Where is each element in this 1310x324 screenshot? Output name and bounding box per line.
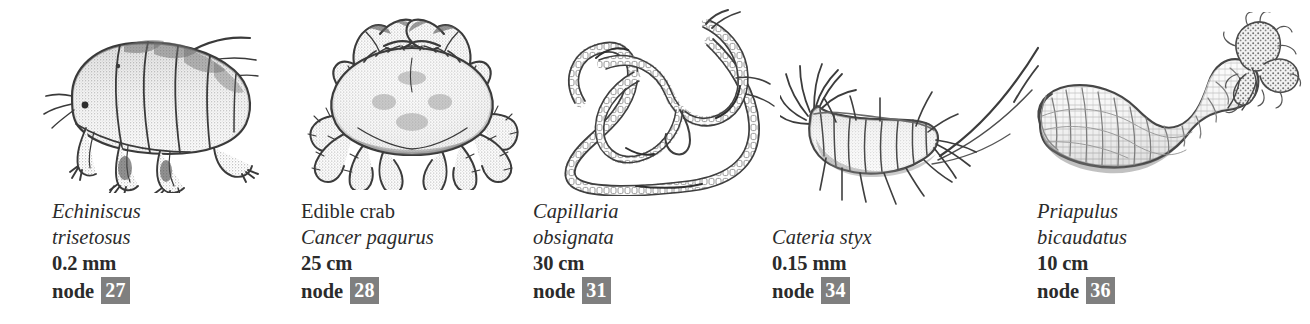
kinorhynch-illustration <box>780 8 1040 208</box>
specimen-size: 25 cm <box>301 250 434 276</box>
scientific-name-line1: Cateria styx <box>772 224 872 250</box>
node-label: node <box>301 278 343 304</box>
scientific-name-line1: Capillaria <box>533 198 618 224</box>
common-name: Edible crab <box>301 198 434 224</box>
scientific-name-line1: Echiniscus <box>52 198 141 224</box>
node-label: node <box>772 278 814 304</box>
scientific-name-line2: bicaudatus <box>1037 224 1127 250</box>
caption-block: Edible crab Cancer pagurus 25 cm node 28 <box>301 198 434 304</box>
scientific-name-line1: Priapulus <box>1037 198 1127 224</box>
scientific-name-line1: Cancer pagurus <box>301 224 434 250</box>
node-number-badge: 27 <box>101 277 130 304</box>
node-label: node <box>1037 278 1079 304</box>
node-label: node <box>52 278 94 304</box>
node-row: node 36 <box>1037 277 1127 304</box>
node-row: node 34 <box>772 277 872 304</box>
caption-block: Priapulus bicaudatus 10 cm node 36 <box>1037 198 1127 304</box>
nematode-illustration <box>540 6 780 196</box>
specimen-size: 10 cm <box>1037 250 1127 276</box>
node-number-badge: 31 <box>582 277 611 304</box>
node-row: node 27 <box>52 277 141 304</box>
node-row: node 28 <box>301 277 434 304</box>
node-number-badge: 36 <box>1086 277 1115 304</box>
caption-block: Echiniscus trisetosus 0.2 mm node 27 <box>52 198 141 304</box>
specimen-plate: Echiniscus trisetosus 0.2 mm node 27 <box>0 0 1310 324</box>
node-number-badge: 34 <box>821 277 850 304</box>
node-row: node 31 <box>533 277 618 304</box>
caption-block: Capillaria obsignata 30 cm node 31 <box>533 198 618 304</box>
node-label: node <box>533 278 575 304</box>
tardigrade-illustration <box>28 8 278 193</box>
caption-block: Cateria styx 0.15 mm node 34 <box>772 224 872 304</box>
crab-illustration <box>292 10 532 190</box>
specimen-size: 0.2 mm <box>52 250 141 276</box>
priapulid-illustration <box>1012 12 1302 197</box>
scientific-name-line2: trisetosus <box>52 224 141 250</box>
specimen-size: 30 cm <box>533 250 618 276</box>
scientific-name-line2: obsignata <box>533 224 618 250</box>
specimen-size: 0.15 mm <box>772 250 872 276</box>
node-number-badge: 28 <box>350 277 379 304</box>
